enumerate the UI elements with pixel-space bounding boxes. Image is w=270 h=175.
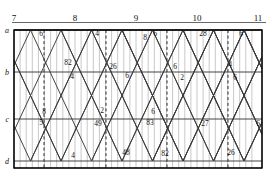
chart-svg: 7891011abcd64862868242666246852496832764…	[0, 0, 270, 175]
point-label: 83	[146, 118, 154, 127]
x-axis-tick-label: 7	[12, 13, 17, 23]
y-axis-tick-label: c	[5, 115, 9, 124]
point-label-group: 64862868242666246852496832764488226	[39, 29, 260, 160]
point-label: 6	[233, 73, 237, 82]
point-label: 2	[100, 106, 104, 115]
trajectory-line	[14, 30, 31, 65]
point-label: 6	[239, 29, 243, 38]
point-label: 6	[256, 119, 260, 128]
point-label: 5	[39, 118, 43, 127]
point-label: 82	[64, 58, 72, 67]
y-axis-tick-label: d	[5, 157, 10, 166]
trajectory-line	[244, 30, 262, 69]
point-label: 2	[180, 73, 184, 82]
station-lines	[14, 30, 262, 161]
point-label: 4	[70, 72, 74, 81]
diagram-root: 7891011abcd64862868242666246852496832764…	[0, 0, 270, 175]
point-label: 6	[151, 107, 155, 116]
point-label: 48	[122, 148, 130, 157]
point-label: 6	[173, 62, 177, 71]
point-label: 28	[199, 29, 207, 38]
x-axis-tick-label: 8	[73, 13, 78, 23]
x-axis-tick-label: 11	[254, 13, 263, 23]
point-label: 27	[201, 119, 209, 128]
point-label: 8	[42, 107, 46, 116]
point-label: 49	[94, 119, 102, 128]
point-label: 26	[109, 62, 117, 71]
chart-stage: 7891011abcd64862868242666246852496832764…	[0, 0, 270, 175]
x-axis-tick-label: 10	[193, 13, 203, 23]
trajectory-line	[14, 126, 31, 161]
point-label: 4	[71, 151, 75, 160]
point-label: 26	[227, 148, 235, 157]
point-label: 82	[161, 149, 169, 158]
point-label: 4	[228, 60, 232, 69]
y-axis-tick-label: a	[5, 26, 9, 35]
point-label: 6	[153, 29, 157, 38]
point-label: 4	[95, 29, 99, 38]
point-label: 6	[39, 29, 43, 38]
point-label: 8	[143, 33, 147, 42]
x-axis-tick-label: 9	[134, 13, 139, 23]
point-label: 6	[125, 71, 129, 80]
trajectory-group	[14, 30, 262, 161]
y-axis-tick-label: b	[5, 68, 9, 77]
trajectory-line	[244, 122, 262, 161]
